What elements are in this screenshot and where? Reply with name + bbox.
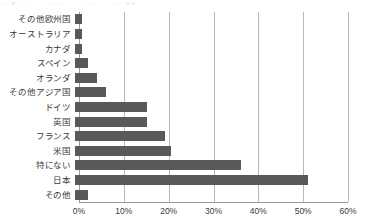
bar-row: その他 [0, 187, 370, 202]
bar-row: 米国 [0, 144, 370, 159]
bar-track [75, 187, 366, 202]
bar-row: 特にない [0, 158, 370, 173]
bar-track [75, 56, 366, 71]
bar [75, 58, 88, 68]
x-axis-tick-labels: 0%10%20%30%40%50%60% [0, 205, 370, 221]
bar-row: 英国 [0, 114, 370, 129]
bar [75, 131, 165, 141]
bar [75, 102, 147, 112]
bar-track [75, 27, 366, 42]
x-tick-label: 30% [205, 205, 222, 217]
category-label: その他アジア国 [0, 87, 75, 97]
bar [75, 14, 82, 24]
x-tick-label: 60% [339, 205, 356, 217]
bar-track [75, 114, 366, 129]
bar-track [75, 12, 366, 27]
bar-row: その他アジア国 [0, 85, 370, 100]
bar-track [75, 41, 366, 56]
bar-row: オランダ [0, 70, 370, 85]
bar-row: スペイン [0, 56, 370, 71]
category-label: フランス [0, 131, 75, 141]
category-label: 米国 [0, 146, 75, 156]
bar-row: その他欧州国 [0, 12, 370, 27]
x-tick-label: 0% [73, 205, 85, 217]
category-label: スペイン [0, 58, 75, 68]
x-tick-label: 20% [160, 205, 177, 217]
bar [75, 29, 82, 39]
bar-track [75, 158, 366, 173]
category-label: オーストラリア [0, 29, 75, 39]
top-cropped-artifact: — ■ — · · —— · · —— · ——■■ [0, 0, 370, 6]
category-label: 日本 [0, 175, 75, 185]
category-label: その他欧州国 [0, 14, 75, 24]
bar-row: オーストラリア [0, 27, 370, 42]
x-tick-label: 10% [115, 205, 132, 217]
bar-row: カナダ [0, 41, 370, 56]
bar-row: 日本 [0, 173, 370, 188]
bar-row: ドイツ [0, 100, 370, 115]
category-label: オランダ [0, 73, 75, 83]
bar-chart: — ■ — · · —— · · —— · ——■■ その他欧州国オーストラリア… [0, 0, 370, 224]
x-tick-label: 50% [295, 205, 312, 217]
category-label: 特にない [0, 160, 75, 170]
category-label: その他 [0, 190, 75, 200]
bar-row: フランス [0, 129, 370, 144]
bar-track [75, 144, 366, 159]
bar [75, 87, 106, 97]
category-label: ドイツ [0, 102, 75, 112]
bar-track [75, 100, 366, 115]
bar [75, 175, 308, 185]
bar [75, 190, 88, 200]
bar [75, 44, 82, 54]
bar [75, 146, 171, 156]
category-label: カナダ [0, 44, 75, 54]
bar [75, 160, 241, 170]
x-tick-label: 40% [250, 205, 267, 217]
bar-track [75, 85, 366, 100]
bar [75, 117, 147, 127]
x-axis-line [79, 202, 348, 203]
category-label: 英国 [0, 117, 75, 127]
bar-track [75, 70, 366, 85]
bar-track [75, 173, 366, 188]
bar [75, 73, 97, 83]
bar-track [75, 129, 366, 144]
bar-rows: その他欧州国オーストラリアカナダスペインオランダその他アジア国ドイツ英国フランス… [0, 12, 370, 202]
